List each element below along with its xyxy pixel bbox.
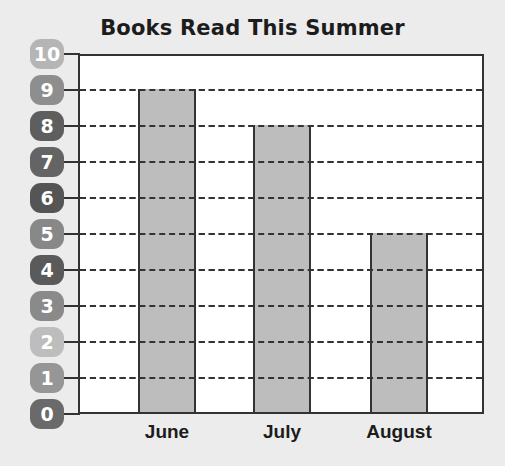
gridline-overlay	[80, 305, 482, 307]
gridline-overlay	[80, 197, 482, 199]
gridline-overlay	[80, 233, 482, 235]
gridline-overlay	[80, 377, 482, 379]
y-tick-label: 2	[30, 327, 64, 357]
gridline-overlay	[80, 341, 482, 343]
x-tick-label: July	[222, 421, 342, 443]
bar-june	[138, 89, 196, 412]
y-tick-label: 5	[30, 219, 64, 249]
x-tick-label: August	[339, 421, 459, 443]
gridline-overlay	[80, 125, 482, 127]
x-tick-label: June	[107, 421, 227, 443]
gridline-overlay	[80, 269, 482, 271]
bar-august	[370, 233, 428, 412]
chart-title: Books Read This Summer	[0, 16, 505, 40]
plot-area	[78, 54, 484, 414]
gridline-overlay	[80, 89, 482, 91]
y-tick-label: 0	[30, 399, 64, 429]
y-tick-label: 8	[30, 111, 64, 141]
y-tick-label: 4	[30, 255, 64, 285]
y-tick-label: 1	[30, 363, 64, 393]
y-tick-label: 10	[30, 39, 64, 69]
y-tick-label: 7	[30, 147, 64, 177]
y-tick-label: 3	[30, 291, 64, 321]
y-tick-label: 6	[30, 183, 64, 213]
y-tick-label: 9	[30, 75, 64, 105]
gridline-overlay	[80, 161, 482, 163]
